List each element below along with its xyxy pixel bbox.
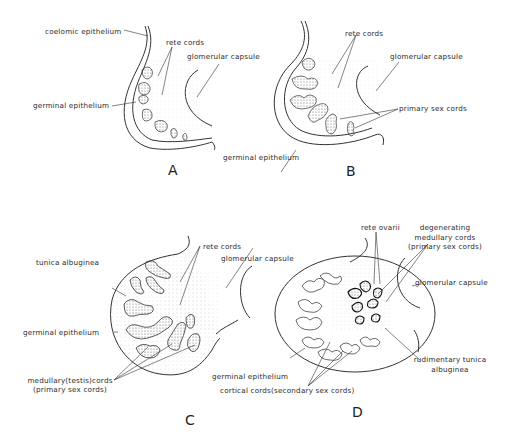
label-germinal-epithelium-d: germinal epithelium (212, 372, 288, 381)
label-glomerular-capsule-c: glomerular capsule (221, 254, 294, 263)
label-rete-cords-c: rete cords (203, 242, 241, 251)
label-rete-cords-b: rete cords (345, 29, 383, 38)
label-tunica-albuginea-c: tunica albuginea (36, 258, 99, 267)
panel-letter-a: A (168, 162, 178, 178)
panel-letter-c: C (185, 412, 195, 428)
label-degen-line2: medullary cords (405, 233, 485, 243)
label-medullary-cords-c: medullary(testis)cords (primary sex cord… (24, 376, 116, 394)
label-coelomic-epithelium-a: coelomic epithelium (45, 27, 122, 36)
label-glomerular-capsule-d: glomerular capsule (415, 278, 488, 287)
label-germinal-epithelium-b: germinal epithelium (223, 153, 299, 162)
label-degenerating-medullary-cords-d: degenerating medullary cords (primary se… (405, 223, 485, 252)
panel-letter-d: D (352, 404, 363, 420)
label-rudim-line1: rudimentary tunica (410, 355, 490, 365)
panel-b-drawing (274, 21, 399, 172)
label-glomerular-capsule-a: glomerular capsule (187, 52, 260, 61)
label-cortical-cords-d: cortical cords(secondary sex cords) (220, 386, 354, 395)
label-rudim-line2: albuginea (410, 365, 490, 375)
label-rete-cords-a: rete cords (166, 38, 204, 47)
label-germinal-epithelium-c: germinal epithelium (23, 328, 99, 337)
label-degen-line1: degenerating (405, 223, 485, 233)
label-germinal-epithelium-a: germinal epithelium (33, 101, 109, 110)
panel-letter-b: B (346, 163, 356, 179)
label-rete-ovarii-d: rete ovarii (361, 223, 400, 232)
label-degen-line3: (primary sex cords) (405, 242, 485, 252)
label-primary-sex-cords-b: primary sex cords (399, 104, 467, 113)
label-medullary-line2: (primary sex cords) (24, 385, 116, 394)
label-rudimentary-tunica-albuginea-d: rudimentary tunica albuginea (410, 355, 490, 375)
label-medullary-line1: medullary(testis)cords (24, 376, 116, 385)
label-glomerular-capsule-b: glomerular capsule (390, 52, 463, 61)
